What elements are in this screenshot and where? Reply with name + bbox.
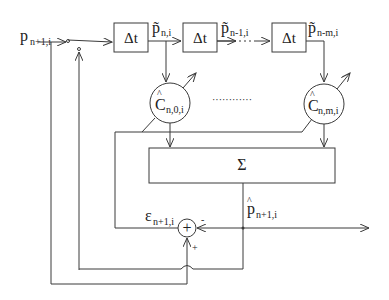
svg-text:n-m,i: n-m,i <box>317 27 339 38</box>
input-signal-label: p n+1,i <box>20 27 51 47</box>
svg-text:Δt: Δt <box>282 30 297 46</box>
svg-text:p: p <box>20 27 28 45</box>
svg-text:Δt: Δt <box>193 30 208 46</box>
delay-block-2: Δt <box>183 23 217 52</box>
tap-line-3 <box>306 41 324 82</box>
delay-block-3: Δt <box>272 23 306 52</box>
summation-block: Σ <box>149 148 335 183</box>
svg-text:Σ: Σ <box>237 156 246 173</box>
svg-text:p̃: p̃ <box>152 19 160 37</box>
delayed-signal-label-2: p̃ n-1,i <box>221 19 249 38</box>
svg-text:n-1,i: n-1,i <box>230 27 249 38</box>
coefficient-node-0: ^ C n,0,i <box>150 73 196 123</box>
plus-sign: + <box>192 242 198 253</box>
delayed-signal-label-3: p̃ n-m,i <box>308 19 339 38</box>
delayed-signal-label-1: p̃ n,i <box>152 19 172 38</box>
adaptive-arrow-icon <box>337 73 350 89</box>
coefficient-node-m: ^ C n,m,i <box>304 73 350 124</box>
minus-sign: - <box>201 214 204 225</box>
svg-text:ε: ε <box>145 207 152 224</box>
svg-text:n,0,i: n,0,i <box>166 104 184 115</box>
svg-text:n,m,i: n,m,i <box>318 105 339 116</box>
svg-text:p̃: p̃ <box>221 19 229 37</box>
svg-text:n+1,i: n+1,i <box>256 209 277 220</box>
svg-text:C: C <box>155 96 166 113</box>
svg-text:n,i: n,i <box>161 27 172 38</box>
svg-text:+: + <box>182 219 191 236</box>
svg-text:n+1,i: n+1,i <box>153 216 174 227</box>
adaptive-predictor-diagram: p n+1,i Δt p̃ n,i Δt p̃ n-1,i Δt p̃ <box>0 0 389 300</box>
error-label: ε n+1,i <box>145 207 174 227</box>
prediction-label: ^ p n+1,i <box>247 195 277 220</box>
adaptive-arrow-icon <box>183 73 196 88</box>
switch-icon <box>67 40 113 51</box>
delay-block-1: Δt <box>114 23 148 52</box>
svg-text:Δt: Δt <box>124 30 139 46</box>
svg-text:p̃: p̃ <box>308 19 316 37</box>
ellipsis: ············ <box>212 94 252 105</box>
prediction-feedback-line <box>79 266 243 270</box>
svg-text:p: p <box>247 200 255 218</box>
adder-node: + <box>178 219 196 237</box>
